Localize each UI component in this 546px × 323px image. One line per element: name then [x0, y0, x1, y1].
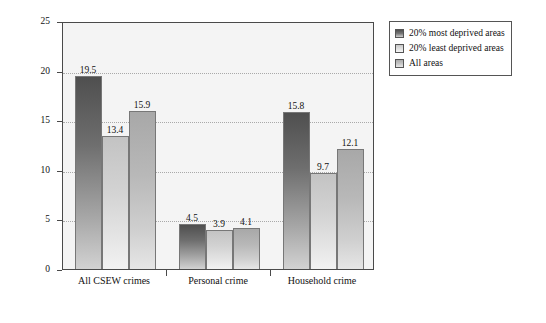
- bar[interactable]: [179, 224, 206, 269]
- y-axis-tick-label: 0: [24, 265, 50, 275]
- bar[interactable]: [233, 228, 260, 269]
- bar[interactable]: [75, 76, 102, 269]
- legend-item[interactable]: 20% most deprived areas: [395, 26, 505, 41]
- x-axis-tick-labels: All CSEW crimesPersonal crimeHousehold c…: [62, 276, 374, 292]
- bar-value-label: 4.1: [229, 218, 264, 228]
- bar-value-label: 19.5: [71, 66, 106, 76]
- bar-value-label: 13.4: [98, 126, 133, 136]
- legend-swatch-icon: [395, 44, 404, 53]
- bar[interactable]: [129, 111, 156, 269]
- x-axis-tick-label: Household crime: [270, 276, 374, 286]
- bar[interactable]: [102, 136, 129, 269]
- y-axis-tick-label: 10: [24, 166, 50, 176]
- legend-item-label: All areas: [409, 59, 443, 69]
- gridline: [63, 73, 373, 74]
- bar[interactable]: [283, 112, 310, 269]
- legend-swatch-icon: [395, 59, 404, 68]
- bar-value-label: 12.1: [333, 139, 368, 149]
- bar-chart-figure: Percentage victims once or more 05101520…: [0, 0, 546, 323]
- legend-item[interactable]: All areas: [395, 56, 505, 71]
- y-axis-tick-label: 15: [24, 116, 50, 126]
- plot-area: 19.513.415.94.53.94.115.89.712.1: [62, 22, 374, 270]
- bar[interactable]: [337, 149, 364, 269]
- legend-item[interactable]: 20% least deprived areas: [395, 41, 505, 56]
- x-axis-tick-label: All CSEW crimes: [62, 276, 166, 286]
- y-axis-tick-mark: [57, 270, 62, 271]
- y-axis-tick-label: 20: [24, 67, 50, 77]
- bar[interactable]: [310, 173, 337, 269]
- chart-legend: 20% most deprived areas 20% least depriv…: [389, 21, 512, 76]
- legend-item-label: 20% least deprived areas: [409, 44, 504, 54]
- x-axis-tick-label: Personal crime: [166, 276, 270, 286]
- bar-value-label: 15.9: [125, 101, 160, 111]
- bar-value-label: 15.8: [279, 102, 314, 112]
- gridline: [63, 122, 373, 123]
- y-axis-tick-label: 25: [24, 17, 50, 27]
- y-axis-tick-label: 5: [24, 215, 50, 225]
- bar-value-label: 9.7: [306, 163, 341, 173]
- legend-swatch-icon: [395, 29, 404, 38]
- bar[interactable]: [206, 230, 233, 269]
- legend-item-label: 20% most deprived areas: [409, 29, 505, 39]
